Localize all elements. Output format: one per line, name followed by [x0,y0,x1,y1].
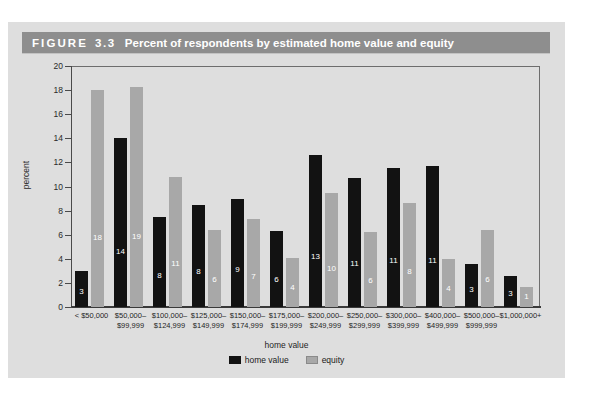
y-axis-tick-label: 10 [23,183,63,192]
bar-value-label: 6 [481,276,494,284]
x-axis-tick-label: $1,000,000+ [494,311,548,321]
bar-group: 1419 [111,66,150,307]
bar-value-label: 4 [442,285,455,293]
bar-home-value[interactable] [192,205,205,307]
y-axis-tick-label: 12 [23,158,63,167]
bar-value-label: 14 [114,248,127,256]
chart-legend: home valueequity [8,355,565,365]
bar-home-value[interactable] [387,168,400,307]
y-axis-tick-label: 16 [23,110,63,119]
bar-home-value[interactable] [114,138,127,307]
bar-value-label: 8 [153,272,166,280]
y-axis-tick [65,90,72,91]
legend-swatch-icon [229,356,241,364]
bar-value-label: 6 [270,276,283,284]
bar-group: 64 [267,66,306,307]
bar-group: 1310 [306,66,345,307]
legend-item-equity[interactable]: equity [306,355,345,365]
bar-home-value[interactable] [270,231,283,307]
bar-group: 31 [501,66,540,307]
bar-home-value[interactable] [348,178,361,307]
bar-value-label: 10 [325,265,338,273]
y-axis-tick [65,138,72,139]
y-axis-tick-label: 14 [23,134,63,143]
legend-label: equity [322,355,345,365]
legend-label: home value [245,355,289,365]
bar-value-label: 7 [247,273,260,281]
bar-group: 97 [228,66,267,307]
legend-item-home[interactable]: home value [229,355,289,365]
y-axis-tick [65,307,72,308]
y-axis-tick [65,162,72,163]
bar-group: 318 [72,66,111,307]
bar-value-label: 9 [231,266,244,274]
x-axis-title: home value [8,340,565,350]
y-axis-tick [65,259,72,260]
y-axis-tick-label: 8 [23,207,63,216]
y-axis-tick [65,211,72,212]
bar-value-label: 6 [364,277,377,285]
y-axis-tick-label: 2 [23,279,63,288]
bar-home-value[interactable] [231,199,244,307]
bar-value-label: 19 [130,233,143,241]
bar-equity[interactable] [208,230,221,307]
bar-value-label: 3 [75,288,88,296]
bar-value-label: 3 [504,290,517,298]
y-axis-tick [65,187,72,188]
bar-value-label: 8 [192,268,205,276]
y-axis-tick-label: 0 [23,303,63,312]
bar-home-value[interactable] [153,217,166,307]
bar-value-label: 8 [403,268,416,276]
bar-equity[interactable] [364,232,377,307]
bar-home-value[interactable] [309,155,322,307]
bar-value-label: 11 [426,257,439,265]
bar-group: 811 [150,66,189,307]
figure-panel: FIGURE 3.3 Percent of respondents by est… [8,22,565,378]
bar-equity[interactable] [325,193,338,307]
bar-equity[interactable] [169,177,182,307]
bar-equity[interactable] [91,90,104,307]
bar-group: 36 [462,66,501,307]
bar-group: 86 [189,66,228,307]
y-axis-tick [65,66,72,67]
y-axis-tick-labels: 02468101214161820 [13,22,63,378]
bar-chart: percent 02468101214161820 31814198118697… [8,22,565,378]
x-axis-tick-labels: < $50,000$50,000–$99,999$100,000–$124,99… [72,311,550,341]
bar-home-value[interactable] [426,166,439,307]
bar-equity[interactable] [130,87,143,308]
bar-value-label: 11 [387,257,400,265]
bar-group: 118 [384,66,423,307]
bar-value-label: 18 [91,234,104,242]
bar-equity[interactable] [481,230,494,307]
bars-layer: 318141981186976413101161181143631 [72,66,540,307]
bar-value-label: 13 [309,253,322,261]
y-axis-tick [65,235,72,236]
bar-value-label: 4 [286,284,299,292]
bar-group: 114 [423,66,462,307]
bar-value-label: 3 [465,286,478,294]
y-axis-tick [65,283,72,284]
y-axis-tick-label: 4 [23,255,63,264]
bar-group: 116 [345,66,384,307]
y-axis-tick-label: 18 [23,86,63,95]
bar-value-label: 1 [520,293,533,301]
bar-equity[interactable] [403,203,416,307]
bar-value-label: 11 [348,260,361,268]
y-axis-tick-label: 6 [23,231,63,240]
legend-swatch-icon [306,356,318,364]
bar-equity[interactable] [247,219,260,307]
bar-equity[interactable] [442,259,455,307]
bar-value-label: 11 [169,260,182,268]
bar-value-label: 6 [208,276,221,284]
y-axis-tick-label: 20 [23,62,63,71]
y-axis-tick [65,114,72,115]
